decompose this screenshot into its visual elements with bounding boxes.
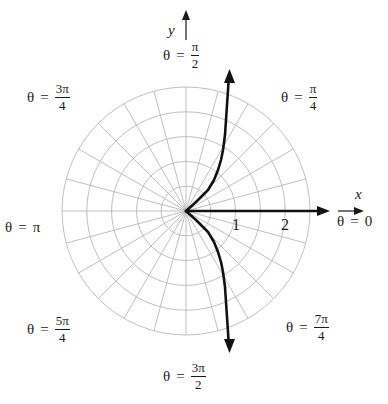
numerator: 7π: [314, 312, 329, 328]
grid-radial-line: [154, 91, 186, 211]
angle-label-pi: θ = π: [5, 220, 40, 235]
theta-symbol: θ: [163, 369, 170, 384]
equals-sign: =: [294, 90, 302, 105]
theta-symbol: θ: [337, 214, 344, 229]
angle-value: π: [33, 220, 41, 235]
curve-lower-branch: [186, 211, 229, 347]
angle-label-3pi-over-4: θ = 3π 4: [27, 82, 70, 112]
grid-radial-line: [98, 211, 186, 299]
numerator: π: [309, 82, 318, 98]
curve-upper-branch: [186, 75, 229, 211]
arrowhead-icon: [224, 339, 235, 353]
arrowhead-icon: [224, 69, 235, 83]
grid-radial-line: [186, 104, 248, 211]
fraction: π 4: [309, 82, 318, 112]
arrowhead-icon: [182, 10, 190, 20]
theta-symbol: θ: [27, 90, 34, 105]
axes: [182, 10, 364, 215]
grid-radial-line: [186, 149, 293, 211]
angle-label-7pi-over-4: θ = 7π 4: [286, 312, 329, 342]
equals-sign: =: [18, 220, 26, 235]
denominator: 4: [318, 328, 325, 343]
arrowhead-icon: [317, 206, 330, 216]
denominator: 2: [192, 56, 199, 71]
fraction: 3π 2: [191, 361, 206, 391]
fraction: π 2: [191, 40, 200, 70]
equals-sign: =: [40, 90, 48, 105]
angle-label-0: θ = 0: [337, 214, 372, 229]
theta-symbol: θ: [286, 320, 293, 335]
theta-symbol: θ: [281, 90, 288, 105]
grid-radial-line: [124, 211, 186, 318]
numerator: 3π: [55, 82, 70, 98]
equals-sign: =: [176, 369, 184, 384]
numerator: 5π: [55, 314, 70, 330]
denominator: 4: [310, 98, 317, 113]
angle-label-3pi-over-2: θ = 3π 2: [163, 361, 206, 391]
equals-sign: =: [40, 322, 48, 337]
grid-radial-line: [66, 179, 186, 211]
y-axis-label: y: [168, 22, 175, 39]
equals-sign: =: [176, 48, 184, 63]
equals-sign: =: [299, 320, 307, 335]
grid-radial-line: [98, 123, 186, 211]
grid-radial-line: [79, 211, 186, 273]
grid-radial-line: [66, 211, 186, 243]
angle-label-pi-over-2: θ = π 2: [163, 40, 199, 70]
theta-symbol: θ: [27, 322, 34, 337]
fraction: 3π 4: [55, 82, 70, 112]
grid-radial-line: [124, 104, 186, 211]
grid-radial-line: [79, 149, 186, 211]
tick-label-1: 1: [232, 216, 240, 234]
grid-radial-line: [154, 211, 186, 331]
theta-symbol: θ: [5, 220, 12, 235]
grid-radial-line: [186, 211, 218, 331]
denominator: 4: [59, 98, 66, 113]
theta-symbol: θ: [163, 48, 170, 63]
numerator: π: [191, 40, 200, 56]
grid-radial-line: [186, 91, 218, 211]
angle-label-5pi-over-4: θ = 5π 4: [27, 314, 70, 344]
equals-sign: =: [350, 214, 358, 229]
angle-label-pi-over-4: θ = π 4: [281, 82, 317, 112]
fraction: 5π 4: [55, 314, 70, 344]
angle-value: 0: [365, 214, 373, 229]
numerator: 3π: [191, 361, 206, 377]
x-axis-label: x: [355, 186, 362, 203]
denominator: 2: [195, 377, 202, 392]
denominator: 4: [59, 330, 66, 345]
tick-label-2: 2: [281, 216, 289, 234]
fraction: 7π 4: [314, 312, 329, 342]
